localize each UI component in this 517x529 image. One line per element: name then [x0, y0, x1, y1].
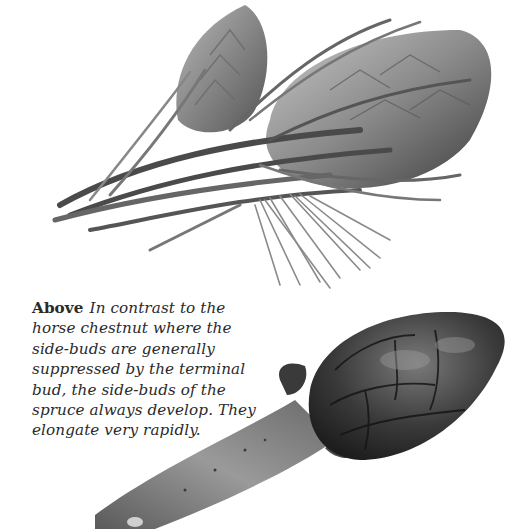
caption-text: In contrast to the horse chestnut where …	[32, 299, 256, 439]
caption-lead: Above	[32, 299, 84, 317]
spruce-bud-illustration	[30, 0, 510, 290]
book-page: AboveIn contrast to the horse chestnut w…	[0, 0, 517, 529]
figure-caption: AboveIn contrast to the horse chestnut w…	[32, 298, 272, 441]
